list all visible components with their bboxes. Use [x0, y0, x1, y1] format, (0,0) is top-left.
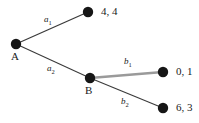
terminal-node-bottom	[158, 103, 168, 113]
decision-node-b	[85, 73, 95, 83]
edge-label-b1: b1	[124, 57, 132, 68]
terminal-node-middle	[158, 67, 168, 77]
edge-label-b2-subscript: 2	[126, 101, 129, 108]
edge-a1	[16, 12, 88, 44]
payoff-top: 4, 4	[101, 6, 118, 17]
edge-label-b2: b2	[121, 97, 129, 108]
node-label-a: A	[11, 51, 19, 62]
terminal-node-top	[83, 7, 93, 17]
edge-label-b1-subscript: 1	[129, 61, 132, 68]
edge-label-a2: a2	[47, 64, 55, 75]
payoff-middle: 0, 1	[176, 66, 193, 77]
edge-label-a1: a1	[44, 15, 52, 26]
game-tree-diagram: A B a1 a2 b1 b2 4, 4 0, 1 6, 3	[0, 0, 199, 123]
edge-b1-highlighted	[90, 72, 163, 78]
node-label-b: B	[85, 85, 92, 96]
payoff-bottom: 6, 3	[176, 102, 193, 113]
edge-label-a2-subscript: 2	[52, 68, 55, 75]
tree-graphics	[0, 0, 199, 123]
edge-label-a1-subscript: 1	[49, 19, 52, 26]
decision-node-a	[11, 39, 21, 49]
